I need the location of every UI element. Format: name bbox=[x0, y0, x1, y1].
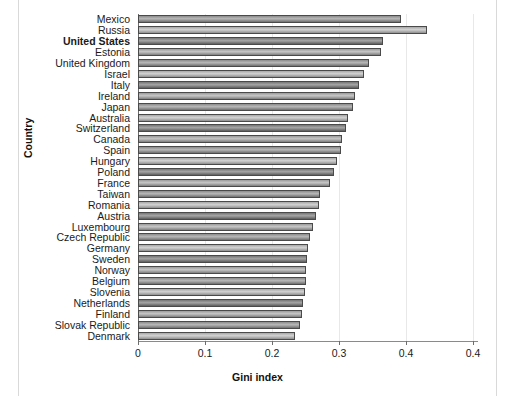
y-tick-label: Sweden bbox=[92, 254, 130, 264]
bar bbox=[138, 255, 307, 263]
x-tick bbox=[138, 341, 139, 345]
bar-row bbox=[138, 223, 478, 231]
bar-row bbox=[138, 103, 478, 111]
bar bbox=[138, 266, 306, 274]
bar bbox=[138, 81, 359, 89]
x-tick-label: 0.3 bbox=[332, 347, 347, 359]
bar-row bbox=[138, 59, 478, 67]
y-tick-label: Poland bbox=[97, 167, 130, 177]
bar-row bbox=[138, 201, 478, 209]
bar bbox=[138, 244, 308, 252]
bar-row bbox=[138, 48, 478, 56]
bar bbox=[138, 288, 305, 296]
y-tick-label: Austria bbox=[97, 211, 130, 221]
bar-row bbox=[138, 310, 478, 318]
bar bbox=[138, 103, 353, 111]
y-tick-label: Hungary bbox=[90, 156, 130, 166]
bar-row bbox=[138, 190, 478, 198]
y-tick-label: Netherlands bbox=[73, 298, 130, 308]
x-tick bbox=[272, 341, 273, 345]
y-tick-label: Australia bbox=[89, 113, 130, 123]
y-tick-label: United Kingdom bbox=[55, 58, 130, 68]
bar bbox=[138, 223, 313, 231]
bar bbox=[138, 332, 295, 340]
y-tick-label: Italy bbox=[111, 80, 130, 90]
y-tick-label: Czech Republic bbox=[56, 232, 130, 242]
bar bbox=[138, 15, 401, 23]
bar-row bbox=[138, 179, 478, 187]
y-tick-label: Luxembourg bbox=[72, 222, 130, 232]
y-tick-label: Japan bbox=[101, 102, 130, 112]
y-tick-label: Russia bbox=[98, 25, 130, 35]
bar bbox=[138, 201, 319, 209]
bar-row bbox=[138, 70, 478, 78]
x-axis-title: Gini index bbox=[0, 371, 515, 383]
bar-row bbox=[138, 332, 478, 340]
bar-row bbox=[138, 255, 478, 263]
bar-row bbox=[138, 288, 478, 296]
y-tick-label: Spain bbox=[103, 145, 130, 155]
y-tick-label: Denmark bbox=[87, 331, 130, 341]
y-tick-label: Israel bbox=[104, 69, 130, 79]
bar-row bbox=[138, 37, 478, 45]
bar bbox=[138, 321, 300, 329]
bar-row bbox=[138, 135, 478, 143]
bar-row bbox=[138, 157, 478, 165]
bar bbox=[138, 37, 383, 45]
y-tick-label: Slovak Republic bbox=[55, 320, 130, 330]
bar bbox=[138, 190, 320, 198]
plot-area: 00.10.20.30.40.4 bbox=[138, 14, 478, 341]
bar bbox=[138, 146, 341, 154]
y-axis-tick-labels: MexicoRussiaUnited StatesEstoniaUnited K… bbox=[18, 14, 135, 341]
bar bbox=[138, 168, 334, 176]
x-axis-line bbox=[138, 341, 478, 342]
bar bbox=[138, 124, 346, 132]
bar bbox=[138, 310, 302, 318]
y-tick-label: United States bbox=[63, 36, 130, 46]
bar bbox=[138, 59, 369, 67]
y-tick-label: Slovenia bbox=[90, 287, 130, 297]
bar bbox=[138, 179, 330, 187]
y-tick-label: Mexico bbox=[97, 14, 130, 24]
bar-row bbox=[138, 146, 478, 154]
y-tick-label: Taiwan bbox=[97, 189, 130, 199]
chart-figure: Country MexicoRussiaUnited StatesEstonia… bbox=[0, 0, 515, 396]
bar-row bbox=[138, 299, 478, 307]
x-tick bbox=[406, 341, 407, 345]
bar bbox=[138, 70, 364, 78]
bar-row bbox=[138, 114, 478, 122]
bar bbox=[138, 135, 342, 143]
x-tick-label: 0 bbox=[135, 347, 141, 359]
x-tick-label: 0.4 bbox=[466, 347, 481, 359]
y-tick-label: France bbox=[97, 178, 130, 188]
bar bbox=[138, 233, 310, 241]
bar-row bbox=[138, 212, 478, 220]
y-tick-label: Finland bbox=[96, 309, 130, 319]
bar-row bbox=[138, 168, 478, 176]
bar bbox=[138, 114, 348, 122]
bar bbox=[138, 26, 427, 34]
y-tick-label: Belgium bbox=[92, 276, 130, 286]
x-tick bbox=[205, 341, 206, 345]
bar bbox=[138, 277, 306, 285]
y-tick-label: Germany bbox=[87, 243, 130, 253]
bar-row bbox=[138, 266, 478, 274]
bar bbox=[138, 92, 355, 100]
bar bbox=[138, 48, 381, 56]
bar bbox=[138, 299, 303, 307]
y-tick-label: Estonia bbox=[95, 47, 130, 57]
bar-row bbox=[138, 124, 478, 132]
bar-row bbox=[138, 81, 478, 89]
x-tick-label: 0.4 bbox=[399, 347, 414, 359]
y-tick-label: Ireland bbox=[98, 91, 130, 101]
bar-row bbox=[138, 92, 478, 100]
x-tick bbox=[473, 341, 474, 345]
y-tick-label: Romania bbox=[88, 200, 130, 210]
x-tick bbox=[339, 341, 340, 345]
bar-row bbox=[138, 244, 478, 252]
bar-row bbox=[138, 321, 478, 329]
bar bbox=[138, 157, 337, 165]
x-tick-label: 0.2 bbox=[265, 347, 280, 359]
bar bbox=[138, 212, 316, 220]
bar-row bbox=[138, 233, 478, 241]
